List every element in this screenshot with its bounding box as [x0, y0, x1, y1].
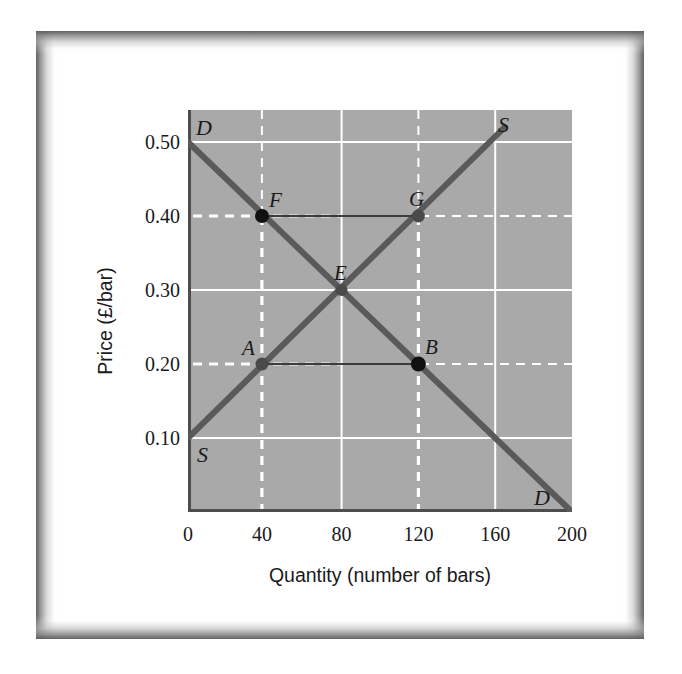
x-tick-label-80: 80: [332, 523, 352, 545]
point-E-marker: [336, 284, 348, 296]
y-tick-label-040: 0.40: [145, 205, 180, 227]
plot-area-background: [188, 110, 572, 512]
point-label-B: B: [425, 335, 438, 359]
point-G-marker: [412, 210, 425, 223]
demand-curve-label-end: D: [533, 485, 550, 510]
x-tick-label-0: 0: [183, 523, 193, 545]
x-axis-title: Quantity (number of bars): [269, 564, 491, 586]
point-label-A: A: [240, 336, 255, 360]
point-B-marker: [411, 357, 426, 372]
point-F-marker: [255, 209, 269, 223]
demand-curve-label-start: D: [195, 115, 212, 140]
x-tick-label-40: 40: [252, 523, 272, 545]
point-label-E: E: [333, 261, 347, 285]
x-tick-label-200: 200: [557, 523, 587, 545]
y-tick-label-030: 0.30: [145, 279, 180, 301]
supply-curve-label-start: S: [197, 442, 208, 467]
x-tick-label-120: 120: [403, 523, 433, 545]
chart-svg: F G E A B D D S S 0.50 0.40 0.30 0.20 0.…: [36, 31, 644, 639]
x-tick-label-160: 160: [480, 523, 510, 545]
point-A-marker: [256, 358, 269, 371]
y-axis-title: Price (£/bar): [94, 267, 116, 374]
y-tick-label-010: 0.10: [145, 427, 180, 449]
y-tick-label-020: 0.20: [145, 353, 180, 375]
y-tick-label-050: 0.50: [145, 131, 180, 153]
figure-root: F G E A B D D S S 0.50 0.40 0.30 0.20 0.…: [0, 0, 682, 674]
point-label-G: G: [409, 187, 424, 211]
supply-curve-label-end: S: [498, 112, 509, 137]
supply-demand-chart: F G E A B D D S S 0.50 0.40 0.30 0.20 0.…: [36, 31, 644, 639]
point-label-F: F: [268, 188, 282, 212]
